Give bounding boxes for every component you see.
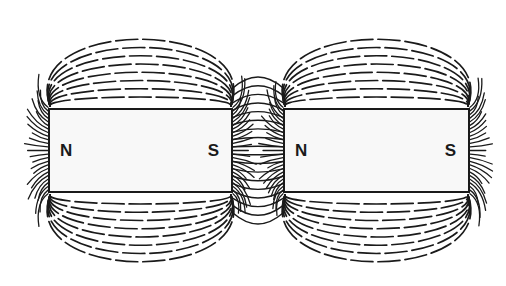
- right-bar-magnet: N S: [283, 108, 470, 193]
- south-pole-label: S: [208, 141, 219, 161]
- south-pole-label: S: [445, 141, 456, 161]
- magnetic-field-diagram: N S N S: [0, 0, 506, 286]
- north-pole-label: N: [60, 141, 72, 161]
- left-bar-magnet: N S: [48, 108, 233, 193]
- north-pole-label: N: [295, 141, 307, 161]
